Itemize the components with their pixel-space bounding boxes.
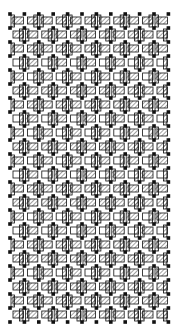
intersection-dot bbox=[8, 292, 12, 296]
intersection-dot bbox=[37, 166, 41, 170]
warp-bar bbox=[91, 267, 95, 279]
warp-bar bbox=[126, 43, 130, 55]
intersection-dot bbox=[152, 124, 156, 128]
intersection-dot bbox=[80, 292, 84, 296]
intersection-dot bbox=[80, 40, 84, 44]
warp-bar bbox=[83, 57, 87, 69]
warp-bar bbox=[112, 29, 116, 41]
intersection-dot bbox=[51, 278, 55, 282]
intersection-dot bbox=[23, 236, 27, 240]
warp-bar bbox=[149, 267, 153, 279]
warp-bar bbox=[112, 281, 116, 293]
intersection-dot bbox=[167, 40, 171, 44]
intersection-dot bbox=[167, 306, 171, 310]
intersection-dot bbox=[123, 152, 127, 156]
warp-bar bbox=[106, 169, 110, 181]
intersection-dot bbox=[138, 96, 142, 100]
intersection-dot bbox=[8, 306, 12, 310]
intersection-dot bbox=[51, 26, 55, 30]
intersection-dot bbox=[95, 292, 99, 296]
intersection-dot bbox=[123, 82, 127, 86]
intersection-dot bbox=[80, 222, 84, 226]
intersection-dot bbox=[138, 180, 142, 184]
warp-bar bbox=[149, 71, 153, 83]
warp-bar bbox=[120, 183, 124, 195]
warp-bar bbox=[149, 15, 153, 27]
intersection-dot bbox=[23, 40, 27, 44]
intersection-dot bbox=[80, 138, 84, 142]
intersection-dot bbox=[138, 124, 142, 128]
intersection-dot bbox=[138, 222, 142, 226]
intersection-dot bbox=[95, 40, 99, 44]
intersection-dot bbox=[80, 194, 84, 198]
intersection-dot bbox=[167, 12, 171, 16]
warp-bar bbox=[106, 309, 110, 321]
intersection-dot bbox=[109, 208, 113, 212]
warp-bar bbox=[63, 99, 67, 111]
warp-bar bbox=[54, 113, 58, 125]
intersection-dot bbox=[138, 138, 142, 142]
intersection-dot bbox=[152, 96, 156, 100]
intersection-dot bbox=[152, 12, 156, 16]
intersection-dot bbox=[8, 264, 12, 268]
intersection-dot bbox=[80, 250, 84, 254]
intersection-dot bbox=[109, 124, 113, 128]
intersection-dot bbox=[152, 152, 156, 156]
intersection-dot bbox=[152, 236, 156, 240]
intersection-dot bbox=[51, 152, 55, 156]
intersection-dot bbox=[8, 250, 12, 254]
intersection-dot bbox=[8, 152, 12, 156]
intersection-dot bbox=[167, 250, 171, 254]
intersection-dot bbox=[23, 152, 27, 156]
warp-bar bbox=[83, 225, 87, 237]
intersection-dot bbox=[138, 236, 142, 240]
intersection-dot bbox=[95, 208, 99, 212]
intersection-dot bbox=[138, 54, 142, 58]
intersection-dot bbox=[37, 292, 41, 296]
intersection-dot bbox=[167, 194, 171, 198]
intersection-dot bbox=[37, 222, 41, 226]
warp-bar bbox=[135, 225, 139, 237]
warp-bar bbox=[34, 99, 38, 111]
intersection-dot bbox=[23, 194, 27, 198]
intersection-dot bbox=[123, 264, 127, 268]
intersection-dot bbox=[66, 306, 70, 310]
warp-bar bbox=[106, 197, 110, 209]
warp-bar bbox=[48, 197, 52, 209]
intersection-dot bbox=[51, 222, 55, 226]
warp-bar bbox=[77, 29, 81, 41]
intersection-dot bbox=[167, 208, 171, 212]
warp-bar bbox=[54, 253, 58, 265]
warp-bar bbox=[106, 57, 110, 69]
intersection-dot bbox=[80, 180, 84, 184]
warp-bar bbox=[97, 155, 101, 167]
intersection-dot bbox=[95, 278, 99, 282]
intersection-dot bbox=[109, 68, 113, 72]
warp-bar bbox=[63, 183, 67, 195]
intersection-dot bbox=[123, 138, 127, 142]
warp-bar bbox=[120, 295, 124, 307]
intersection-dot bbox=[51, 292, 55, 296]
warp-bar bbox=[69, 267, 73, 279]
warp-bar bbox=[54, 197, 58, 209]
warp-bar bbox=[112, 113, 116, 125]
warp-bar bbox=[63, 43, 67, 55]
intersection-dot bbox=[123, 124, 127, 128]
warp-bar bbox=[25, 113, 29, 125]
warp-bar bbox=[91, 15, 95, 27]
warp-bar bbox=[19, 225, 23, 237]
warp-bar bbox=[126, 183, 130, 195]
warp-bar bbox=[77, 225, 81, 237]
intersection-dot bbox=[66, 68, 70, 72]
warp-bar bbox=[106, 225, 110, 237]
intersection-dot bbox=[138, 82, 142, 86]
intersection-dot bbox=[80, 124, 84, 128]
warp-bar bbox=[149, 239, 153, 251]
intersection-dot bbox=[109, 194, 113, 198]
warp-bar bbox=[25, 253, 29, 265]
intersection-dot bbox=[152, 40, 156, 44]
warp-bar bbox=[112, 57, 116, 69]
intersection-dot bbox=[95, 68, 99, 72]
warp-bar bbox=[40, 183, 44, 195]
intersection-dot bbox=[138, 320, 142, 324]
